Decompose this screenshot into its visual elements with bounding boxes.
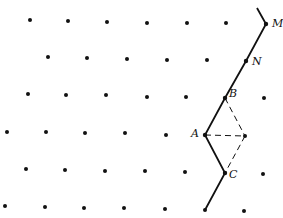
lattice-point: [44, 130, 48, 134]
lattice-point: [64, 93, 68, 97]
lattice-point: [262, 96, 266, 100]
lattice-point: [24, 167, 28, 171]
lattice-point: [28, 18, 32, 22]
lattice-point: [26, 92, 30, 96]
label-A: A: [191, 128, 199, 139]
lattice-point: [261, 172, 265, 176]
lattice-point: [103, 169, 107, 173]
dashed-segment: [225, 98, 245, 136]
lattice-point: [205, 58, 209, 62]
lattice-point: [83, 131, 87, 135]
lattice-point: [163, 207, 167, 211]
label-M: M: [272, 18, 283, 29]
lattice-point: [143, 169, 147, 173]
lattice-point: [164, 133, 168, 137]
lattice-diagram: M N B A C: [0, 0, 283, 218]
lattice-point: [122, 206, 126, 210]
point-M: [264, 22, 268, 26]
lattice-point: [145, 95, 149, 99]
lattice-point: [185, 21, 189, 25]
lattice-point: [184, 95, 188, 99]
lattice-point: [243, 134, 247, 138]
lattice-point: [46, 55, 50, 59]
lattice-point: [105, 20, 109, 24]
lattice-point: [183, 170, 187, 174]
lattice-point: [104, 93, 108, 97]
lattice-point: [242, 209, 246, 213]
lattice-point: [43, 205, 47, 209]
point-N: [244, 59, 248, 63]
lattice-point: [66, 19, 70, 23]
label-C: C: [229, 169, 237, 180]
lattice-point: [145, 21, 149, 25]
label-B: B: [229, 88, 237, 99]
dashed-segment: [205, 135, 245, 136]
point-A: [203, 133, 207, 137]
point-B: [223, 96, 227, 100]
lattice-point: [224, 21, 228, 25]
lattice-point: [165, 58, 169, 62]
lattice-point: [5, 130, 9, 134]
lattice-point: [123, 131, 127, 135]
lattice-point: [125, 57, 129, 61]
lattice-point: [82, 206, 86, 210]
lattice-point: [203, 208, 207, 212]
lattice-point: [63, 168, 67, 172]
lattice-point: [85, 56, 89, 60]
lattice-point: [3, 204, 7, 208]
point-C: [223, 171, 227, 175]
diagram-canvas: [0, 0, 283, 218]
label-N: N: [252, 56, 262, 67]
